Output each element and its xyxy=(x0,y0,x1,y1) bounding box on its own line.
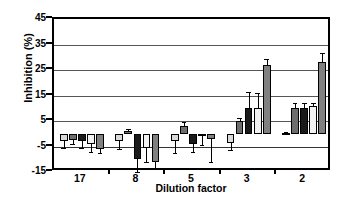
chart-figure: Inhibition (%) -15-5515253545 178532 Dil… xyxy=(0,0,346,198)
error-bar-cap xyxy=(70,144,75,145)
error-bar-cap xyxy=(182,122,187,123)
x-tick-mark xyxy=(163,169,165,174)
error-bar xyxy=(249,92,250,109)
bar xyxy=(236,121,244,134)
error-bar-cap xyxy=(284,132,289,133)
error-bar xyxy=(211,139,212,162)
gridline xyxy=(54,70,328,71)
error-bar xyxy=(202,135,203,145)
error-bar-cap xyxy=(89,152,94,153)
plot-area xyxy=(52,17,330,170)
error-bar-cap xyxy=(79,148,84,149)
bar xyxy=(171,134,179,142)
error-bar xyxy=(91,144,92,152)
bar xyxy=(300,108,308,134)
bar xyxy=(189,134,197,144)
error-bar-cap xyxy=(126,129,131,130)
gridline xyxy=(54,96,328,97)
error-bar xyxy=(146,148,147,162)
error-bar-cap xyxy=(255,93,260,94)
error-bar xyxy=(175,141,176,152)
error-bar-cap xyxy=(209,162,214,163)
error-bar-cap xyxy=(144,162,149,163)
gridline xyxy=(54,45,328,46)
bar xyxy=(263,65,271,134)
error-bar-cap xyxy=(311,103,316,104)
y-tick-label: 15 xyxy=(2,88,46,99)
bar xyxy=(282,133,290,135)
error-bar-cap xyxy=(246,92,251,93)
bar xyxy=(60,134,68,142)
bar xyxy=(309,106,317,134)
bar xyxy=(78,134,86,142)
x-tick-mark xyxy=(108,169,110,174)
y-tick-label: 35 xyxy=(2,37,46,48)
bar xyxy=(291,108,299,134)
error-bar-cap xyxy=(293,103,298,104)
error-bar-cap xyxy=(61,148,66,149)
bar xyxy=(87,134,95,144)
bar xyxy=(254,108,262,134)
y-tick-label: -5 xyxy=(2,139,46,150)
error-bar-cap xyxy=(228,150,233,151)
bar xyxy=(318,62,326,133)
error-bar xyxy=(322,53,323,62)
error-bar-cap xyxy=(320,53,325,54)
error-bar-cap xyxy=(200,145,205,146)
bar xyxy=(124,131,132,134)
error-bar xyxy=(119,141,120,149)
bar xyxy=(143,134,151,148)
error-bar-cap xyxy=(173,153,178,154)
error-bar xyxy=(193,144,194,152)
bar xyxy=(180,126,188,134)
error-bar-cap xyxy=(117,149,122,150)
x-axis-title: Dilution factor xyxy=(52,182,330,194)
error-bar-cap xyxy=(191,152,196,153)
bar xyxy=(96,134,104,149)
bar xyxy=(134,134,142,160)
gridline xyxy=(54,121,328,122)
error-bar-cap xyxy=(153,168,158,169)
error-bar-cap xyxy=(264,59,269,60)
error-bar-cap xyxy=(237,118,242,119)
x-tick-mark xyxy=(274,169,276,174)
bar xyxy=(115,134,123,142)
y-tick-label: -15 xyxy=(2,165,46,176)
error-bar-cap xyxy=(98,153,103,154)
bar xyxy=(227,134,235,143)
error-bar-cap xyxy=(302,103,307,104)
y-tick-label: 45 xyxy=(2,12,46,23)
x-tick-mark xyxy=(219,169,221,174)
error-bar xyxy=(258,93,259,108)
y-tick-label: 5 xyxy=(2,114,46,125)
bar xyxy=(152,134,160,162)
error-bar xyxy=(137,159,138,172)
error-bar xyxy=(231,143,232,151)
y-tick-label: 25 xyxy=(2,63,46,74)
bar xyxy=(245,108,253,134)
